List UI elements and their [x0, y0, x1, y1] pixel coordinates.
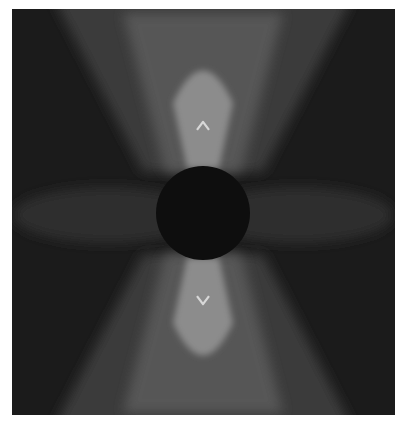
vector-field-figure: [12, 9, 395, 415]
circular-inclusion: [156, 166, 250, 260]
field-canvas: [12, 9, 395, 415]
